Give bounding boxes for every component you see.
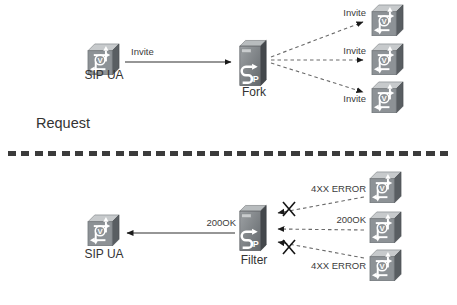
blocked-x-icon xyxy=(283,202,295,216)
fork-label: Fork xyxy=(236,87,272,98)
branch-error-label: 4XX ERROR xyxy=(298,260,366,271)
endpoint-router-icon xyxy=(369,42,406,75)
invite-arrow-label: Invite xyxy=(131,46,154,57)
fork-branch-arrows xyxy=(271,22,363,92)
endpoint-router-icon xyxy=(367,170,404,203)
sip-ua-label: SIP UA xyxy=(78,70,130,81)
branch-error-label: 4XX ERROR xyxy=(298,183,366,194)
sip-ua-label: SIP UA xyxy=(78,249,130,260)
endpoint-router-icon xyxy=(369,3,406,36)
endpoint-router-icon xyxy=(369,80,406,113)
request-heading: Request xyxy=(36,118,90,129)
ok-arrow-label: 200OK xyxy=(182,217,236,228)
branch-invite-label: Invite xyxy=(328,45,366,56)
sip-ua-icon xyxy=(85,213,122,246)
filter-server-icon xyxy=(237,204,269,254)
sip-fork-filter-diagram: V IP xyxy=(0,0,457,305)
branch-ok-label: 200OK xyxy=(298,214,366,225)
branch-invite-label: Invite xyxy=(328,7,366,18)
section-divider xyxy=(8,151,450,156)
fork-server-icon xyxy=(237,39,269,89)
branch-invite-label: Invite xyxy=(328,93,366,104)
blocked-x-icon xyxy=(283,240,295,254)
filter-label: Filter xyxy=(234,255,274,266)
endpoint-router-icon xyxy=(367,248,404,281)
endpoint-router-icon xyxy=(367,210,404,243)
